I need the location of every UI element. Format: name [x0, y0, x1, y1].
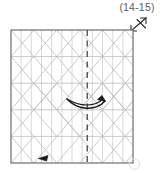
- origami-diagram: [0, 0, 163, 173]
- corner-reference-circle-icon: [129, 159, 139, 169]
- diagonal-double-arrow-icon: [131, 18, 146, 31]
- origami-step-figure: (14-15): [0, 0, 163, 173]
